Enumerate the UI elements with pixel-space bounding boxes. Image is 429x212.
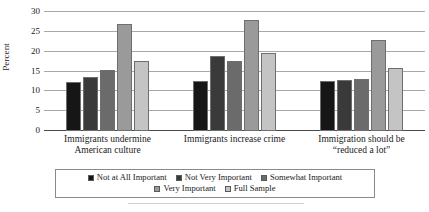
- bar-3-3: [354, 79, 369, 131]
- bar-2-1: [193, 81, 208, 131]
- category-label-line: Immigration should be: [299, 134, 424, 145]
- legend-label: Not at All Important: [97, 172, 167, 183]
- category-label-1: Immigrants undermineAmerican culture: [44, 134, 171, 156]
- legend-label: Full Sample: [234, 183, 276, 194]
- bar-3-2: [337, 80, 352, 131]
- bars-layer: [44, 12, 425, 131]
- legend-entry-full-sample[interactable]: Full Sample: [225, 183, 276, 194]
- y-tick-label-0: 0: [36, 126, 41, 135]
- y-tick-label-20: 20: [31, 46, 40, 55]
- bar-1-1: [66, 82, 81, 131]
- bar-2-2: [210, 56, 225, 131]
- legend-label: Very Important: [163, 183, 215, 194]
- bar-chart-figure: Percent 051015202530 Immigrants undermin…: [0, 0, 429, 212]
- bar-2-5: [261, 53, 276, 131]
- category-label-line: Immigrants increase crime: [172, 134, 297, 145]
- legend-entry-not-at-all-important[interactable]: Not at All Important: [88, 172, 167, 183]
- y-tick-label-25: 25: [31, 26, 40, 35]
- bar-1-5: [134, 61, 149, 131]
- bar-3-1: [320, 81, 335, 131]
- legend-swatch-icon: [88, 175, 94, 181]
- y-tick-label-5: 5: [36, 106, 41, 115]
- category-label-2: Immigrants increase crime: [171, 134, 298, 156]
- caption-cutoff-rule: [128, 203, 304, 204]
- category-label-line: American culture: [45, 145, 170, 156]
- bar-3-5: [388, 68, 403, 131]
- y-tick-label-30: 30: [31, 7, 40, 16]
- bar-1-2: [83, 77, 98, 131]
- category-label-3: Immigration should be“reduced a lot”: [298, 134, 425, 156]
- y-axis-title: Percent: [1, 27, 11, 87]
- legend-label: Somewhat Important: [270, 172, 342, 183]
- plot-area: 051015202530: [44, 12, 425, 131]
- bar-1-4: [117, 24, 132, 131]
- legend-swatch-icon: [176, 175, 182, 181]
- bar-2-4: [244, 20, 259, 131]
- legend-swatch-icon: [154, 186, 160, 192]
- legend-swatch-icon: [261, 175, 267, 181]
- legend-entry-somewhat-important[interactable]: Somewhat Important: [261, 172, 342, 183]
- x-axis-category-labels: Immigrants undermineAmerican cultureImmi…: [44, 134, 425, 156]
- bar-group-3: [298, 12, 425, 131]
- legend-entry-not-very-important[interactable]: Not Very Important: [176, 172, 252, 183]
- category-label-line: Immigrants undermine: [45, 134, 170, 145]
- legend-label: Not Very Important: [185, 172, 252, 183]
- bar-group-1: [44, 12, 171, 131]
- legend-entry-very-important[interactable]: Very Important: [154, 183, 215, 194]
- legend-row-secondary: Very ImportantFull Sample: [59, 183, 371, 194]
- bar-group-2: [171, 12, 298, 131]
- legend-row-primary: Not at All ImportantNot Very ImportantSo…: [59, 172, 371, 183]
- bar-1-3: [100, 70, 115, 131]
- legend-swatch-icon: [225, 186, 231, 192]
- category-label-line: “reduced a lot”: [299, 145, 424, 156]
- y-tick-label-10: 10: [31, 86, 40, 95]
- chart-legend: Not at All ImportantNot Very ImportantSo…: [55, 169, 375, 198]
- bar-2-3: [227, 61, 242, 131]
- bar-3-4: [371, 40, 386, 131]
- y-tick-label-15: 15: [31, 66, 40, 75]
